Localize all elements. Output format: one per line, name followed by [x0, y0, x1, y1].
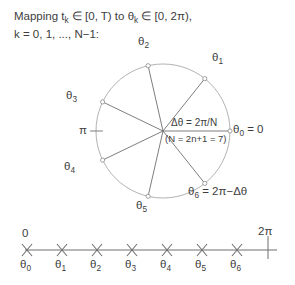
numberline-tick-label-6: θ6 — [230, 259, 241, 271]
circle-label-theta-4: θ4 — [64, 161, 75, 173]
theta-marker-3 — [101, 100, 105, 104]
spokes-group — [103, 66, 230, 197]
spoke-theta-5 — [148, 131, 163, 196]
theta-marker-2 — [146, 64, 150, 68]
theta-marker-0 — [228, 129, 232, 133]
numberline-label-zero: 0 — [22, 228, 28, 240]
n-definition-annotation: (N = 2n+1 = 7) — [165, 134, 227, 144]
circle-label-theta-2: θ2 — [138, 36, 149, 48]
numberline-tick-label-2: θ2 — [90, 259, 101, 271]
circle-label-theta-0: θ0 = 0 — [233, 124, 264, 136]
numberline-tick-label-0: θ0 — [20, 259, 31, 271]
numberline-tick-label-4: θ4 — [160, 259, 171, 271]
circle-label-theta-5: θ5 — [136, 200, 147, 212]
circle-label-theta-6: θ6 = 2π−Δθ — [188, 186, 247, 198]
numberline-tick-label-3: θ3 — [125, 259, 136, 271]
spoke-theta-4 — [103, 131, 163, 160]
theta-marker-5 — [146, 194, 150, 198]
theta-marker-1 — [203, 77, 207, 81]
spoke-theta-3 — [103, 102, 163, 131]
numberline-tick-label-1: θ1 — [55, 259, 66, 271]
spoke-theta-2 — [148, 66, 163, 131]
delta-theta-annotation: Δθ = 2π/N — [171, 118, 217, 128]
numberline-tick-label-5: θ5 — [195, 259, 206, 271]
circle-label-theta-1: θ1 — [212, 52, 223, 64]
circle-label-theta-3: θ3 — [66, 90, 77, 102]
circle-label-pi: π — [79, 125, 87, 137]
theta-marker-4 — [101, 158, 105, 162]
numberline-label-2pi: 2π — [258, 226, 272, 238]
